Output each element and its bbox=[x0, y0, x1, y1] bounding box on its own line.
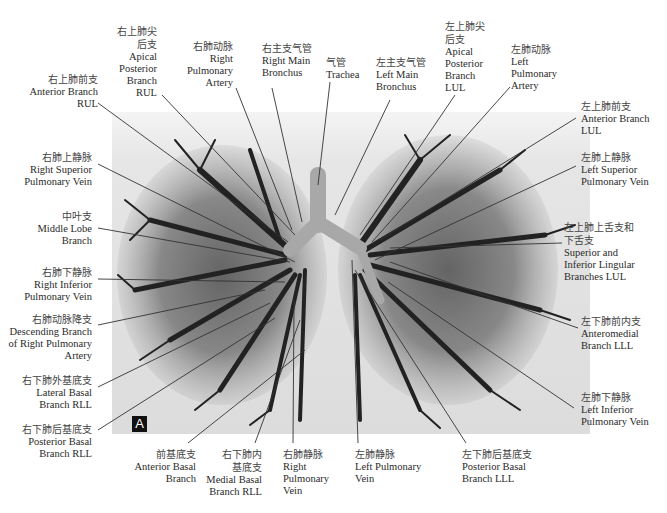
label-anterior-branch-rul: 右上肺前支 Anterior Branch RUL bbox=[20, 73, 98, 110]
label-posterior-basal-lll: 左下肺后基底支 Posterior Basal Branch LLL bbox=[462, 448, 532, 485]
label-medial-basal-rll: 右下肺内 基底支 Medial Basal Branch RLL bbox=[200, 448, 262, 498]
label-anterior-branch-lul: 左上肺前支 Anterior Branch LUL bbox=[581, 100, 650, 137]
label-left-pulmonary-artery: 左肺动脉 Left Pulmonary Artery bbox=[511, 43, 557, 92]
label-left-main-bronchus: 左主支气管 Left Main Bronchus bbox=[376, 56, 426, 93]
label-left-pulmonary-vein: 左肺静脉 Left Pulmonary Vein bbox=[355, 448, 421, 485]
label-trachea: 气管 Trachea bbox=[326, 56, 359, 81]
label-left-superior-pulmonary-vein: 左肺上静脉 Left Superior Pulmonary Vein bbox=[581, 151, 649, 188]
label-anterior-basal-branch: 前基底支 Anterior Basal Branch bbox=[126, 448, 196, 485]
figure-canvas: A 右上肺前支 Anterior Branch RUL 右上肺尖 后支 Apic… bbox=[0, 0, 667, 513]
label-left-inferior-pulmonary-vein: 左肺下静脉 Left Inferior Pulmonary Vein bbox=[581, 391, 649, 428]
label-descending-branch-rpa: 右肺动脉降支 Descending Branch of Right Pulmon… bbox=[0, 313, 92, 362]
label-right-inferior-pulmonary-vein: 右肺下静脉 Right Inferior Pulmonary Vein bbox=[0, 266, 92, 303]
label-right-pulmonary-vein: 右肺静脉 Right Pulmonary Vein bbox=[283, 448, 329, 497]
label-middle-lobe-branch: 中叶支 Middle Lobe Branch bbox=[0, 210, 92, 247]
label-lingular-branches-lul: 左上肺上舌支和 下舌支 Superior and Inferior Lingul… bbox=[564, 221, 635, 283]
label-right-superior-pulmonary-vein: 右肺上静脉 Right Superior Pulmonary Vein bbox=[0, 151, 92, 188]
label-apical-posterior-rul: 右上肺尖 后支 Apical Posterior Branch RUL bbox=[100, 25, 157, 99]
label-right-pulmonary-artery: 右肺动脉 Right Pulmonary Artery bbox=[176, 40, 233, 89]
label-posterior-basal-rll: 右下肺后基底支 Posterior Basal Branch RLL bbox=[0, 423, 92, 460]
label-apical-posterior-lul: 左上肺尖 后支 Apical Posterior Branch LUL bbox=[445, 20, 485, 94]
label-right-main-bronchus: 右主支气管 Right Main Bronchus bbox=[262, 42, 312, 79]
label-lateral-basal-rll: 右下肺外基底支 Lateral Basal Branch RLL bbox=[0, 374, 92, 411]
panel-letter: A bbox=[132, 416, 147, 432]
label-anteromedial-branch-lll: 左下肺前内支 Anteromedial Branch LLL bbox=[581, 315, 641, 352]
